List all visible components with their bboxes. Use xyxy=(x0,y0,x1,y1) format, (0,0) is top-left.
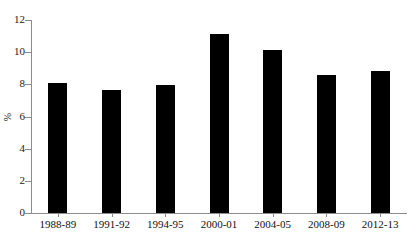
y-tick-label: 4 xyxy=(0,143,25,154)
bar-series xyxy=(31,20,407,213)
x-tick-label: 2000-01 xyxy=(189,218,249,230)
bar xyxy=(48,83,67,213)
bar xyxy=(317,75,336,213)
x-tick xyxy=(165,213,166,217)
x-tick xyxy=(380,213,381,217)
bar-chart: % 121086420 1988-891991-921994-952000-01… xyxy=(0,0,411,239)
x-tick-label: 2008-09 xyxy=(296,218,356,230)
x-tick xyxy=(273,213,274,217)
y-tick-label: 6 xyxy=(0,111,25,122)
y-tick xyxy=(25,213,31,214)
bar xyxy=(156,85,175,213)
x-tick xyxy=(58,213,59,217)
x-tick-label: 1994-95 xyxy=(135,218,195,230)
x-tick xyxy=(112,213,113,217)
y-tick-label: 8 xyxy=(0,78,25,89)
y-tick-label: 12 xyxy=(0,14,25,25)
x-tick-label: 2012-13 xyxy=(350,218,410,230)
bar xyxy=(210,34,229,213)
x-tick-label: 2004-05 xyxy=(243,218,303,230)
bar xyxy=(371,71,390,213)
y-tick-label: 10 xyxy=(0,46,25,57)
y-tick-label: 2 xyxy=(0,175,25,186)
y-tick-label: 0 xyxy=(0,207,25,218)
x-tick xyxy=(219,213,220,217)
x-tick xyxy=(326,213,327,217)
chart-title-cropped xyxy=(52,0,257,5)
x-tick-label: 1991-92 xyxy=(82,218,142,230)
bar xyxy=(263,50,282,213)
x-tick-label: 1988-89 xyxy=(28,218,88,230)
bar xyxy=(102,90,121,213)
